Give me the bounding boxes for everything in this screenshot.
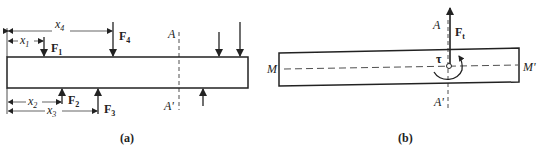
label-m-prime: M' [522,60,536,74]
figure-b: A Ft τ M M' A' (b) [266,8,536,145]
diagram-canvas: x4 x1 F1 F4 x2 x3 F2 F3 A A' (a) A Ft τ … [0,0,540,146]
beam-a [7,57,248,88]
label-m: M [266,62,278,76]
caption-a: (a) [120,131,134,145]
label-f1: F1 [51,41,62,57]
label-torque: τ [436,52,442,66]
label-section-a-top: A [167,27,176,41]
dimension-x4-left-arrowhead [8,28,13,34]
label-x4: x4 [54,17,64,33]
label-x1: x1 [19,33,29,49]
label-f3: F3 [104,102,115,118]
caption-b: (b) [398,131,413,145]
label-x2: x2 [27,94,37,110]
figure-a: x4 x1 F1 F4 x2 x3 F2 F3 A A' (a) [7,17,248,145]
label-ft: Ft [455,25,465,41]
label-x3: x3 [46,103,56,119]
label-f4: F4 [119,29,130,45]
label-f2: F2 [68,93,79,109]
pivot-point [447,64,452,69]
label-section-b-top: A [432,18,441,32]
label-section-a-bottom: A' [163,99,174,113]
axis-m-m-prime [284,65,518,69]
label-section-b-bottom: A' [433,95,444,109]
